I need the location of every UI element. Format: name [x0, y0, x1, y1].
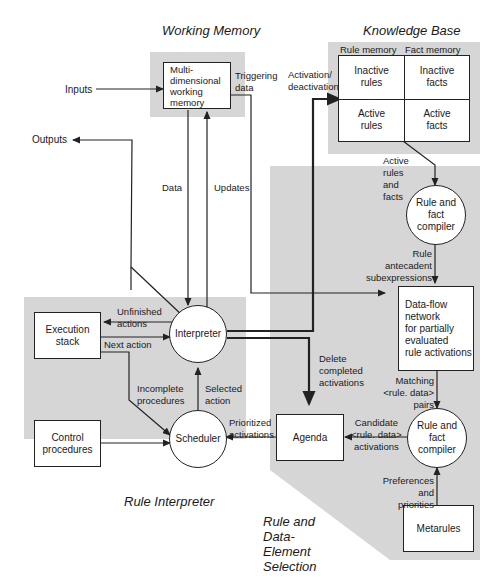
prioritized-label: Prioritized activations — [229, 417, 274, 441]
interpreter-circle: Interpreter — [169, 305, 227, 363]
activation-label: Activation/ deactivation — [288, 69, 339, 93]
preferences-label: Preferences and priorities — [370, 475, 434, 511]
compiler-bottom-label: Rule and fact compiler — [417, 420, 457, 456]
inputs-label: Inputs — [65, 84, 92, 96]
outputs-label: Outputs — [32, 134, 67, 146]
agenda-label: Agenda — [293, 432, 327, 444]
interpreter-label: Interpreter — [175, 328, 221, 340]
delete-label: Delete completed activations — [319, 353, 364, 389]
compiler-top-label: Rule and fact compiler — [416, 197, 456, 233]
inactive-facts-cell: Inactive facts — [404, 56, 469, 99]
rule-fact-compiler-bottom: Rule and fact compiler — [407, 408, 467, 468]
execution-stack-label: Execution stack — [46, 324, 90, 348]
data-label: Data — [162, 182, 182, 194]
dataflow-network-box: Data-flow network for partially evaluate… — [398, 286, 474, 371]
knowledge-base-grid: Inactive rules Inactive facts Active rul… — [338, 55, 470, 142]
triggering-label: Triggering data — [235, 70, 277, 94]
active-rules-facts-label: Active rules and facts — [383, 155, 409, 203]
working-memory-label: Multi- dimensional working memory — [170, 64, 221, 108]
candidate-label: Candidate <rule. data> activations — [351, 417, 402, 453]
next-action-label: Next action — [104, 339, 152, 351]
control-procedures-box: Control procedures — [34, 420, 101, 467]
active-facts-cell: Active facts — [404, 99, 469, 142]
scheduler-circle: Scheduler — [169, 410, 227, 468]
incomplete-label: Incomplete procedures — [137, 383, 185, 407]
selected-label: Selected action — [205, 383, 242, 407]
execution-stack-box: Execution stack — [34, 312, 101, 359]
updates-label: Updates — [214, 182, 249, 194]
scheduler-label: Scheduler — [175, 433, 220, 445]
metarules-label: Metarules — [417, 523, 461, 535]
antecedent-label: Rule antecadent subexpressions — [358, 248, 432, 284]
dataflow-label: Data-flow network for partially evaluate… — [405, 299, 472, 359]
rule-fact-compiler-top: Rule and fact compiler — [406, 185, 466, 245]
unfinished-label: Unfinished actions — [117, 306, 162, 330]
inactive-rules-cell: Inactive rules — [339, 56, 404, 99]
matching-label: Matching <rule. data> pairs — [370, 375, 434, 411]
metarules-box: Metarules — [403, 505, 474, 552]
agenda-box: Agenda — [276, 414, 344, 461]
control-procedures-label: Control procedures — [42, 432, 92, 456]
working-memory-box: Multi- dimensional working memory — [163, 62, 231, 109]
active-rules-cell: Active rules — [339, 99, 404, 142]
